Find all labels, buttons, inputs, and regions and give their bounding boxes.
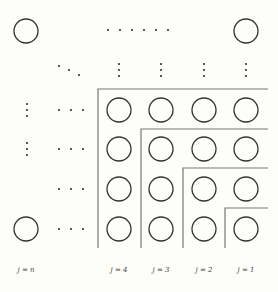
boundary-level-3 (141, 129, 268, 248)
ellipsis-dot (58, 148, 60, 150)
ellipsis-dot (245, 69, 247, 71)
node-r2-c2 (192, 177, 216, 201)
node-r2-c0 (107, 177, 131, 201)
ellipsis-dot (118, 63, 120, 65)
label-j-1: j = 1 (238, 266, 255, 274)
node-r3-c1 (149, 217, 173, 241)
label-j-n: j = n (18, 266, 35, 274)
ellipsis-dot (58, 188, 60, 190)
ellipsis-dot (26, 142, 28, 144)
ellipsis-dot (160, 63, 162, 65)
ellipsis-dot (58, 228, 60, 230)
ellipsis-dot (68, 69, 70, 71)
node-r2-c3 (234, 177, 258, 201)
ellipsis-dot (58, 65, 60, 67)
ellipsis-dot (70, 109, 72, 111)
label-j-4: j = 4 (111, 266, 128, 274)
node-r1-c1 (149, 137, 173, 161)
ellipsis-dot (78, 74, 80, 76)
ellipsis-dot (203, 63, 205, 65)
ellipsis-dot (118, 69, 120, 71)
node-r1-c3 (234, 137, 258, 161)
ellipsis-dot (143, 29, 145, 31)
node-r1-c2 (192, 137, 216, 161)
ellipsis-dot (160, 69, 162, 71)
node-r0-c2 (192, 98, 216, 122)
ellipsis-dot (26, 154, 28, 156)
ellipsis-dot (167, 29, 169, 31)
boundary-level-1 (225, 208, 268, 248)
node-r0-c1 (149, 98, 173, 122)
label-j-3: j = 3 (153, 266, 170, 274)
ellipsis-dot (70, 188, 72, 190)
ellipsis-dot (70, 148, 72, 150)
ellipsis-dot (26, 109, 28, 111)
node-r3-c3 (234, 217, 258, 241)
node-array-diagram (0, 0, 278, 292)
ellipsis-dot (82, 109, 84, 111)
label-j-2: j = 2 (196, 266, 213, 274)
ellipsis-dot (160, 75, 162, 77)
node-r3-c2 (192, 217, 216, 241)
node-r1-c0 (107, 137, 131, 161)
ellipsis-dot (155, 29, 157, 31)
ellipsis-dot (107, 29, 109, 31)
ellipsis-dot (58, 109, 60, 111)
ellipsis-dot (82, 228, 84, 230)
node-top-left (14, 19, 38, 43)
ellipsis-dot (26, 148, 28, 150)
node-bottom-left (14, 217, 38, 241)
node-r0-c3 (234, 98, 258, 122)
ellipsis-dot (203, 75, 205, 77)
diagram-canvas: j = n j = 4 j = 3 j = 2 j = 1 (0, 0, 278, 292)
ellipsis-dot (118, 75, 120, 77)
node-top-right (234, 19, 258, 43)
ellipsis-dot (245, 75, 247, 77)
ellipsis-dot (70, 228, 72, 230)
node-r0-c0 (107, 98, 131, 122)
ellipsis-dot (203, 69, 205, 71)
ellipsis-dot (131, 29, 133, 31)
ellipsis-dot (245, 63, 247, 65)
ellipsis-dot (26, 103, 28, 105)
ellipsis-dot (82, 188, 84, 190)
ellipsis-dot (82, 148, 84, 150)
node-r2-c1 (149, 177, 173, 201)
node-r3-c0 (107, 217, 131, 241)
ellipsis-dot (26, 115, 28, 117)
ellipsis-dot (119, 29, 121, 31)
